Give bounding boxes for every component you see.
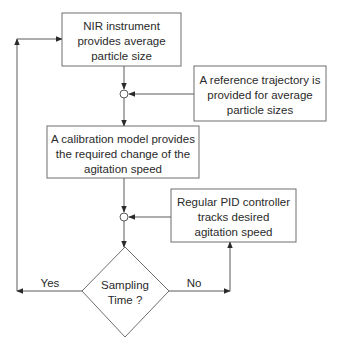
node-calibration-line-2: the required change of the — [56, 148, 190, 160]
edge-label-yes: Yes — [41, 277, 60, 289]
node-pid-line-2: tracks desired — [198, 211, 270, 223]
node-nir-line-2: provides average — [77, 35, 165, 47]
node-reference-trajectory: A reference trajectory is provided for a… — [194, 66, 326, 121]
node-reference-line-1: A reference trajectory is — [200, 74, 321, 86]
node-sampling-line-2: Time ? — [108, 294, 143, 306]
node-nir-line-3: particle size — [91, 50, 152, 62]
edge-label-no: No — [187, 277, 202, 289]
node-pid-line-3: agitation speed — [194, 226, 272, 238]
flowchart-diagram: NIR instrument provides average particle… — [0, 0, 338, 346]
node-pid-line-1: Regular PID controller — [177, 196, 290, 208]
node-calibration-line-3: agitation speed — [84, 163, 162, 175]
node-calibration-model: A calibration model provides the require… — [47, 126, 199, 178]
node-reference-line-3: particle sizes — [227, 104, 294, 116]
node-nir-line-1: NIR instrument — [83, 20, 160, 32]
node-pid-controller: Regular PID controller tracks desired ag… — [171, 189, 296, 242]
node-sampling-line-1: Sampling — [101, 279, 149, 291]
node-nir-instrument: NIR instrument provides average particle… — [62, 13, 181, 66]
node-sampling-time-decision: Sampling Time ? — [82, 247, 169, 337]
summing-junction-2 — [120, 213, 128, 221]
node-reference-line-2: provided for average — [207, 89, 312, 101]
summing-junction-1 — [120, 90, 128, 98]
node-calibration-line-1: A calibration model provides — [51, 133, 195, 145]
